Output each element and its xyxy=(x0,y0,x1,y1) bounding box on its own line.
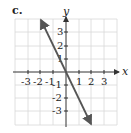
svg-text:2: 2 xyxy=(88,76,94,87)
coordinate-plane: x y -3 -2 -1 1 2 3 3 2 1 -1 -2 -3 xyxy=(0,0,131,133)
x-axis-label: x xyxy=(122,65,129,78)
svg-text:-3: -3 xyxy=(52,105,62,116)
svg-text:-2: -2 xyxy=(33,76,43,87)
svg-text:1: 1 xyxy=(76,76,82,87)
svg-text:3: 3 xyxy=(57,26,63,37)
svg-text:2: 2 xyxy=(57,40,63,51)
y-tick-labels: 3 2 1 -1 -2 -3 xyxy=(52,26,63,116)
svg-text:-3: -3 xyxy=(21,76,31,87)
svg-text:-1: -1 xyxy=(52,79,62,90)
svg-text:3: 3 xyxy=(101,76,107,87)
y-axis-label: y xyxy=(62,5,70,18)
svg-text:-2: -2 xyxy=(52,92,62,103)
